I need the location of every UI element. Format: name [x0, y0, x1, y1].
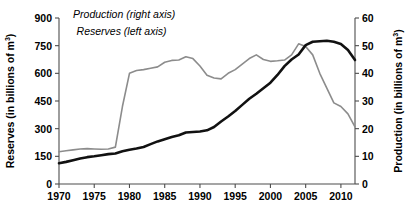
right-tick-label: 10 — [362, 150, 374, 162]
right-tick-label: 0 — [362, 178, 368, 190]
x-tick-label: 1990 — [188, 190, 212, 202]
x-tick-label: 2010 — [329, 190, 353, 202]
x-tick-label: 1985 — [153, 190, 177, 202]
right-axis-ticks: 0102030405060 — [355, 12, 374, 190]
series-line-reserves — [59, 44, 355, 152]
x-tick-label: 1975 — [83, 190, 107, 202]
chart-container: 0150300450600750900 0102030405060 197019… — [0, 0, 412, 220]
left-tick-label: 450 — [34, 95, 52, 107]
series-line-production — [59, 41, 355, 164]
left-tick-label: 150 — [34, 150, 52, 162]
annotation-reserves: Reserves (left axis) — [77, 25, 167, 37]
right-tick-label: 20 — [362, 123, 374, 135]
left-axis-ticks: 0150300450600750900 — [34, 12, 59, 190]
right-tick-label: 30 — [362, 95, 374, 107]
x-axis-ticks: 197019751980198519901995200020052010 — [47, 184, 352, 202]
x-tick-label: 1995 — [224, 190, 248, 202]
x-tick-label: 1970 — [47, 190, 71, 202]
chart-annotations: Reserves (left axis)Production (right ax… — [73, 8, 175, 37]
left-tick-label: 300 — [34, 123, 52, 135]
left-tick-label: 600 — [34, 67, 52, 79]
left-axis-title: Reserves (in billions of m3) — [4, 34, 16, 169]
left-tick-label: 0 — [46, 178, 52, 190]
chart-svg: 0150300450600750900 0102030405060 197019… — [0, 0, 412, 220]
x-tick-label: 1980 — [118, 190, 142, 202]
x-tick-label: 2005 — [294, 190, 318, 202]
annotation-production: Production (right axis) — [73, 8, 175, 20]
right-axis-title: Production (in billions of m3) — [392, 29, 404, 172]
x-tick-label: 2000 — [259, 190, 283, 202]
right-tick-label: 60 — [362, 12, 374, 24]
right-tick-label: 50 — [362, 40, 374, 52]
left-tick-label: 750 — [34, 40, 52, 52]
right-tick-label: 40 — [362, 67, 374, 79]
left-tick-label: 900 — [34, 12, 52, 24]
